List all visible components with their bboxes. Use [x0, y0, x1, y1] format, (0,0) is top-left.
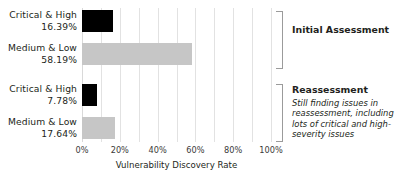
xtick-label-20: 20%: [111, 145, 129, 155]
gridline-90: [252, 8, 253, 142]
category-name: Critical & High: [0, 83, 77, 95]
gridline-50: [177, 8, 178, 142]
category-value: 58.19%: [0, 54, 77, 66]
category-label-critical-high-reassessment: Critical & High 7.78%: [0, 83, 77, 106]
bar-medium-low-initial: [82, 43, 192, 65]
gridline-100: [271, 8, 272, 142]
xtick-label-100: 100%: [259, 145, 282, 155]
bar-critical-high-initial: [82, 10, 113, 32]
gridline-70: [214, 8, 215, 142]
vulnerability-discovery-rate-chart: Critical & High 16.39% Medium & Low 58.1…: [0, 0, 410, 178]
category-name: Medium & Low: [0, 42, 77, 54]
gridline-20: [120, 8, 121, 142]
category-name: Critical & High: [0, 9, 77, 21]
annotation-title: Initial Assessment: [292, 24, 410, 36]
xtick-label-80: 80%: [224, 145, 242, 155]
xtick-label-0: 0%: [76, 145, 89, 155]
category-name: Medium & Low: [0, 116, 77, 128]
bracket-reassessment: [276, 84, 283, 142]
xtick-label-40: 40%: [148, 145, 166, 155]
bracket-initial-assessment: [276, 11, 283, 69]
bar-critical-high-reassessment: [82, 84, 97, 106]
gridline-60: [195, 8, 196, 142]
annotation-initial-assessment: Initial Assessment: [292, 24, 410, 36]
category-value: 17.64%: [0, 128, 77, 140]
gridline-30: [139, 8, 140, 142]
category-value: 16.39%: [0, 21, 77, 33]
x-axis-title: Vulnerability Discovery Rate: [82, 160, 271, 170]
gridline-80: [233, 8, 234, 142]
annotation-title: Reassessment: [292, 84, 410, 96]
xtick-label-60: 60%: [186, 145, 204, 155]
annotation-description: Still finding issues in reassessment, in…: [292, 98, 410, 140]
category-value: 7.78%: [0, 95, 77, 107]
category-label-medium-low-initial: Medium & Low 58.19%: [0, 42, 77, 65]
annotation-reassessment: Reassessment Still finding issues in rea…: [292, 84, 410, 140]
category-label-critical-high-initial: Critical & High 16.39%: [0, 9, 77, 32]
gridline-40: [158, 8, 159, 142]
bar-medium-low-reassessment: [82, 117, 115, 139]
plot-area: [82, 8, 271, 142]
category-label-medium-low-reassessment: Medium & Low 17.64%: [0, 116, 77, 139]
